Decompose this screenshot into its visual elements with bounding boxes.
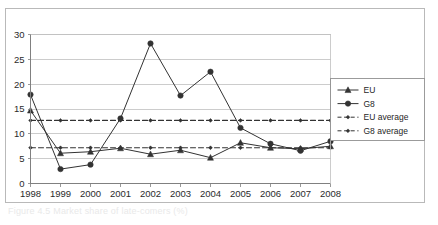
- x-axis-tick-label: 2006: [260, 188, 281, 199]
- series-g8-average: [29, 119, 333, 123]
- data-point: [209, 146, 213, 150]
- data-point: [59, 119, 63, 123]
- data-point: [149, 146, 153, 150]
- x-axis-tick-label: 2007: [290, 188, 311, 199]
- figure-caption: Figure 4.5 Market share of late-comers (…: [8, 206, 428, 216]
- x-axis-tick-label: 2003: [170, 188, 191, 199]
- data-point: [178, 93, 183, 98]
- legend-label: G8: [364, 99, 376, 109]
- y-axis-tick-label: 15: [14, 103, 25, 114]
- data-point: [239, 119, 243, 123]
- x-axis-tick-label: 1998: [20, 188, 41, 199]
- x-axis-tick-label: 2002: [140, 188, 161, 199]
- data-point: [148, 41, 153, 46]
- legend-label: EU average: [364, 112, 409, 122]
- x-axis-tick-label: 2001: [110, 188, 131, 199]
- line-chart: 1998199920002001200220032004200520062007…: [0, 0, 438, 225]
- axes: [28, 35, 331, 187]
- legend: EUG8EU averageG8 average: [331, 79, 425, 141]
- data-point: [209, 119, 213, 123]
- data-point: [208, 69, 213, 74]
- x-axis-tick-label: 2000: [80, 188, 101, 199]
- legend-swatch-marker: [345, 101, 350, 106]
- x-axis-tick-label: 2008: [320, 188, 341, 199]
- legend-label: EU: [364, 85, 376, 95]
- data-point: [149, 119, 153, 123]
- data-point: [238, 125, 243, 130]
- x-axis-tick-labels: 1998199920002001200220032004200520062007…: [20, 188, 341, 199]
- y-axis-tick-labels: 051015202530: [14, 29, 25, 189]
- data-point: [237, 140, 243, 146]
- y-axis-tick-label: 5: [19, 153, 24, 164]
- legend-label: G8 average: [364, 126, 409, 136]
- data-point: [89, 119, 93, 123]
- data-point: [179, 119, 183, 123]
- series-group: [27, 41, 333, 172]
- y-axis-tick-label: 30: [14, 29, 25, 40]
- x-axis-tick-label: 1999: [50, 188, 71, 199]
- data-point: [59, 146, 63, 150]
- y-axis-tick-label: 10: [14, 128, 25, 139]
- y-axis-tick-label: 0: [19, 178, 24, 189]
- y-axis-tick-label: 25: [14, 54, 25, 65]
- data-point: [88, 162, 93, 167]
- y-axis-tick-label: 20: [14, 79, 25, 90]
- data-point: [89, 146, 93, 150]
- data-point: [299, 119, 303, 123]
- data-point: [269, 119, 273, 123]
- series-eu-average: [29, 146, 333, 150]
- x-axis-tick-label: 2005: [230, 188, 251, 199]
- data-point: [58, 166, 63, 171]
- x-axis-tick-label: 2004: [200, 188, 221, 199]
- data-point: [239, 146, 243, 150]
